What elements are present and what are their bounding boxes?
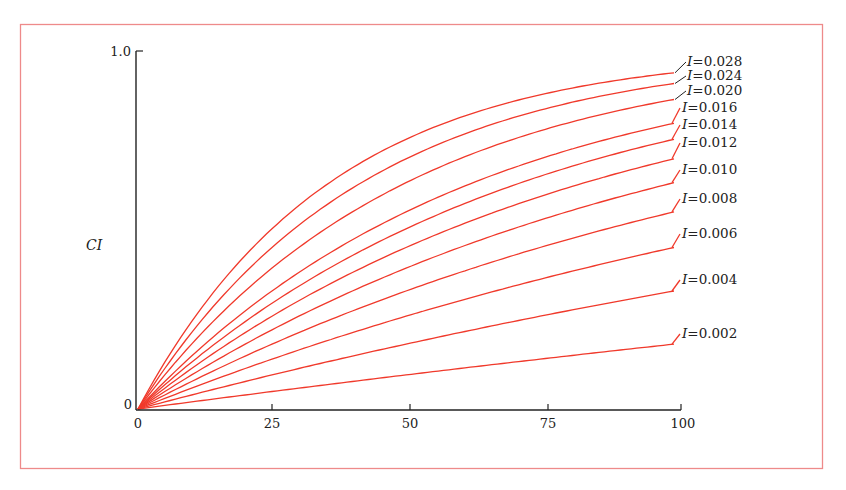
leader-line bbox=[675, 62, 686, 73]
curve-i-0-008 bbox=[138, 212, 674, 409]
leader-line bbox=[675, 76, 686, 84]
curve-group bbox=[138, 73, 674, 409]
x-tick-label-50: 50 bbox=[402, 416, 419, 431]
curve-i-0-002 bbox=[138, 344, 674, 409]
curve-label: I=0.024 bbox=[686, 67, 742, 83]
curve-label: I=0.012 bbox=[681, 134, 737, 150]
y-tick-label-zero: 0 bbox=[124, 397, 132, 412]
curve-label: I=0.014 bbox=[681, 116, 737, 132]
x-tick-label-75: 75 bbox=[540, 416, 557, 431]
curve-label: I=0.016 bbox=[681, 99, 737, 115]
curve-i-0-006 bbox=[138, 248, 674, 410]
x-tick-label-25: 25 bbox=[264, 416, 281, 431]
curve-i-0-024 bbox=[138, 84, 674, 410]
chart: 1.0 0 0 25 50 75 100 CI I=0.028I=0.024I=… bbox=[0, 0, 846, 490]
curve-label: I=0.008 bbox=[681, 190, 737, 206]
curve-label: I=0.004 bbox=[681, 271, 737, 287]
curve-label: I=0.010 bbox=[681, 161, 737, 177]
x-tick-label-100: 100 bbox=[671, 416, 696, 431]
curve-label: I=0.020 bbox=[686, 82, 742, 98]
curve-i-0-012 bbox=[138, 159, 674, 409]
y-tick-label-top: 1.0 bbox=[110, 44, 131, 59]
curve-label-group: I=0.028I=0.024I=0.020I=0.016I=0.014I=0.0… bbox=[681, 53, 742, 341]
curve-label: I=0.006 bbox=[681, 225, 737, 241]
y-axis-label: CI bbox=[86, 237, 103, 253]
x-tick-label-0: 0 bbox=[134, 416, 142, 431]
curve-i-0-020 bbox=[138, 100, 674, 410]
curve-label: I=0.002 bbox=[681, 325, 737, 341]
